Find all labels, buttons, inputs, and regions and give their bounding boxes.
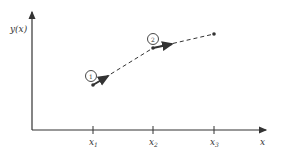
tick-label-x1: x1 (89, 137, 98, 148)
point-3 (212, 32, 216, 36)
point-2 (151, 46, 155, 50)
step-marker-2-label: 2 (151, 36, 155, 43)
y-axis-label: y(x) (9, 24, 28, 34)
x-axis-label: x (260, 137, 265, 147)
slope-arrow-1 (93, 76, 108, 85)
euler-step-diagram: 1 2 y(x) x x1 x2 x3 (0, 0, 283, 151)
tick-label-x3: x3 (210, 137, 219, 148)
slope-arrow-2 (153, 44, 172, 48)
step-marker-1-label: 1 (89, 73, 93, 80)
point-1 (91, 83, 95, 87)
tick-label-x2: x2 (149, 137, 158, 148)
